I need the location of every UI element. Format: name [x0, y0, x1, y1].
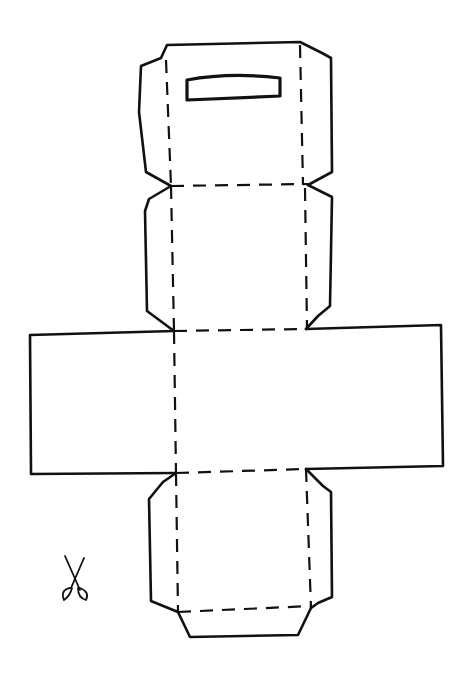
paper-background: [0, 0, 472, 676]
box-net-drawing: [0, 0, 472, 676]
box-net-canvas: Box net cut-out template solid line = cu…: [0, 0, 472, 676]
